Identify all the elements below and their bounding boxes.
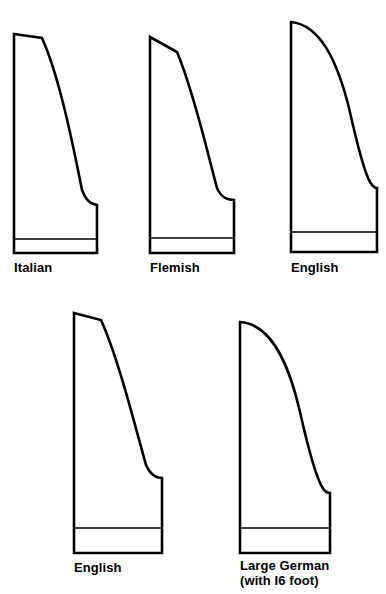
shape-label-english-bottom: English [74,560,122,575]
case-shape-diagram: ItalianFlemishEnglishEnglishLarge German… [0,0,386,594]
shape-label-english-top: English [291,260,339,275]
shape-label-italian: Italian [14,260,52,275]
shape-label-large-german: Large German [240,558,329,573]
shape-sublabel-large-german: (with I6 foot) [240,573,319,588]
harpsichord-shapes-figure: ItalianFlemishEnglishEnglishLarge German… [0,0,386,594]
shape-label-flemish: Flemish [150,260,200,275]
